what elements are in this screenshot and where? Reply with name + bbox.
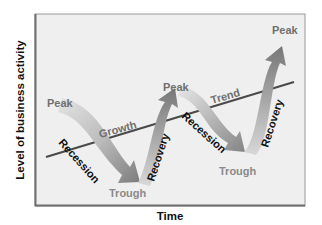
peak-label-1: Peak — [47, 97, 74, 109]
business-cycle-diagram: Peak Trough Peak Trough Peak Growth Tren… — [0, 0, 322, 225]
x-axis-label: Time — [157, 210, 184, 222]
peak-label-2: Peak — [163, 81, 190, 93]
peak-label-3: Peak — [272, 24, 299, 36]
trough-label-2: Trough — [219, 165, 257, 177]
y-axis-label: Level of business activity — [14, 40, 26, 180]
trough-label-1: Trough — [109, 187, 147, 199]
